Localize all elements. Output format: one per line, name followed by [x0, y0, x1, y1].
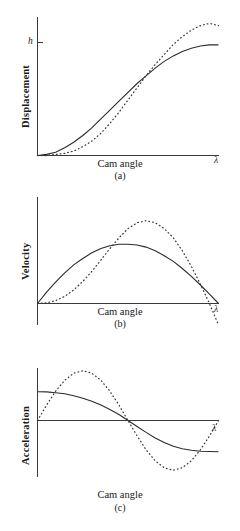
displacement-solid-curve	[38, 45, 219, 156]
x-axis-label-b: Cam angle	[0, 306, 240, 317]
lambda-symbol-c: λ	[212, 423, 216, 433]
cam-motion-figure: Displacement h λ Cam angle (a) Velocity …	[0, 0, 240, 531]
acceleration-solid-curve	[38, 392, 219, 452]
displacement-plot-area	[0, 0, 240, 180]
panel-caption-c: (c)	[0, 502, 240, 513]
h-tick-label: h	[28, 36, 33, 46]
panel-caption-b: (b)	[0, 318, 240, 329]
velocity-solid-curve	[38, 244, 219, 303]
y-axis-label-displacement: Displacement	[20, 65, 31, 128]
y-axis-label-acceleration: Acceleration	[20, 406, 31, 465]
y-axis-label-velocity: Velocity	[20, 243, 31, 280]
panel-displacement: Displacement h λ Cam angle (a)	[0, 0, 240, 180]
panel-acceleration: Acceleration λ Cam angle (c)	[0, 355, 240, 531]
displacement-dotted-curve	[38, 23, 219, 155]
x-axis-label-c: Cam angle	[0, 489, 240, 500]
panel-velocity: Velocity λ Cam angle (b)	[0, 180, 240, 355]
x-axis-label-a: Cam angle	[0, 158, 240, 169]
